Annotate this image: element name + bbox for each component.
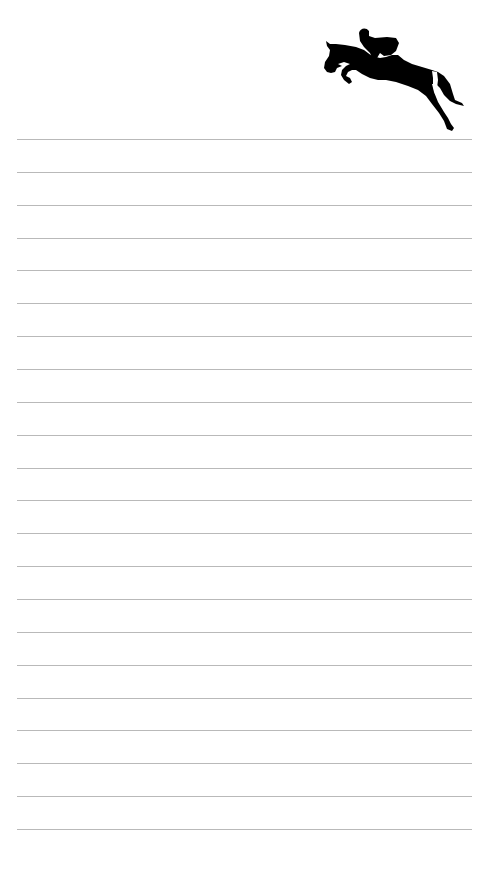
ruled-line	[17, 468, 472, 469]
ruled-line	[17, 500, 472, 501]
ruled-line	[17, 270, 472, 271]
ruled-line	[17, 336, 472, 337]
ruled-line	[17, 698, 472, 699]
ruled-line	[17, 435, 472, 436]
ruled-line	[17, 796, 472, 797]
ruled-line	[17, 665, 472, 666]
ruled-line	[17, 238, 472, 239]
ruled-line	[17, 205, 472, 206]
ruled-line	[17, 303, 472, 304]
ruled-line	[17, 139, 472, 140]
ruled-line	[17, 566, 472, 567]
ruled-line	[17, 533, 472, 534]
ruled-line	[17, 829, 472, 830]
ruled-line	[17, 763, 472, 764]
ruled-line	[17, 632, 472, 633]
ruled-line	[17, 402, 472, 403]
ruled-line	[17, 369, 472, 370]
ruled-lines	[17, 0, 472, 871]
ruled-line	[17, 730, 472, 731]
ruled-line	[17, 172, 472, 173]
ruled-line	[17, 599, 472, 600]
